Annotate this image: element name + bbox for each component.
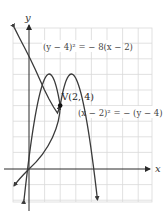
vertex-label: V(2, 4): [61, 91, 94, 102]
vertex-point: [58, 103, 63, 108]
parabola-diagram: V(2, 4) (y − 4)² = − 8(x − 2) (x − 2)² =…: [0, 0, 165, 211]
equation-label-left-parabola: (y − 4)² = − 8(x − 2): [43, 42, 133, 52]
left-opening-parabola-lower: [14, 106, 60, 186]
y-axis-label: y: [24, 12, 31, 23]
equation-label-down-parabola: (x − 2)² = − (y − 4): [78, 108, 163, 118]
x-axis-label: x: [155, 163, 161, 174]
graph-canvas: V(2, 4) (y − 4)² = − 8(x − 2) (x − 2)² =…: [0, 0, 165, 211]
